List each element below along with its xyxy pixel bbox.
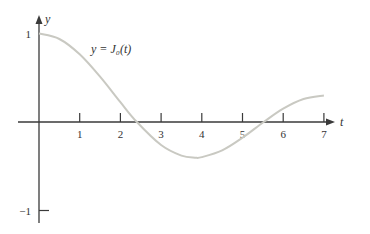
x-tick-label: 2 (118, 128, 124, 140)
x-tick-label: 1 (77, 128, 83, 140)
x-tick-label: 6 (280, 128, 286, 140)
bessel-chart: 12345671−1 y t y = J₀(t) (0, 0, 370, 234)
x-axis-arrow-icon (326, 119, 335, 126)
y-tick-label: −1 (19, 205, 31, 217)
curve-annotation: y = J₀(t) (90, 42, 131, 56)
x-tick-label: 7 (321, 128, 327, 140)
y-axis-label: y (44, 12, 51, 26)
x-tick-label: 4 (199, 128, 205, 140)
y-axis-arrow-icon (36, 15, 43, 24)
x-axis-label: t (340, 115, 344, 129)
x-tick-label: 3 (158, 128, 164, 140)
y-tick-label: 1 (26, 28, 32, 40)
